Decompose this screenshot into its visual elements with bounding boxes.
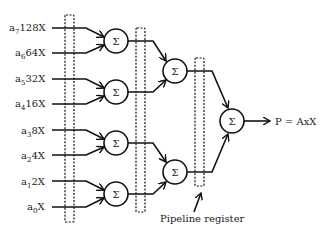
input-label-a4: a416X <box>15 98 46 112</box>
adder-level-3: Σ <box>220 109 244 133</box>
pipeline-register-1 <box>65 15 74 222</box>
sigma-icon: Σ <box>112 87 119 98</box>
input-wires <box>52 28 104 207</box>
input-label-a0: a0X <box>27 201 45 215</box>
output-label: P = AxX <box>275 116 317 127</box>
sigma-icon: Σ <box>112 138 119 149</box>
sigma-icon: Σ <box>171 66 178 77</box>
input-label-a6: a664X <box>15 47 46 61</box>
sigma-icon: Σ <box>228 116 235 127</box>
adder-level-2: Σ Σ <box>163 59 187 184</box>
pipelined-adder-tree-diagram: a7128X a664X a532X a416X a38X a24X a12X … <box>0 0 326 234</box>
input-label-a5: a532X <box>15 73 46 87</box>
register-pointer-arrow <box>194 193 201 212</box>
sigma-icon: Σ <box>112 36 119 47</box>
pipeline-register-2 <box>136 28 145 212</box>
pipeline-register-3 <box>195 58 204 186</box>
sigma-icon: Σ <box>171 167 178 178</box>
input-labels: a7128X a664X a532X a416X a38X a24X a12X … <box>9 22 47 215</box>
input-label-a1: a12X <box>21 176 46 190</box>
pipeline-register-label: Pipeline register <box>160 213 245 224</box>
level1-wires <box>128 41 166 194</box>
adder-level-1: Σ Σ Σ Σ <box>104 29 128 206</box>
input-label-a2: a24X <box>21 150 46 164</box>
sigma-icon: Σ <box>112 189 119 200</box>
input-label-a3: a38X <box>21 125 46 139</box>
input-label-a7: a7128X <box>9 22 47 36</box>
